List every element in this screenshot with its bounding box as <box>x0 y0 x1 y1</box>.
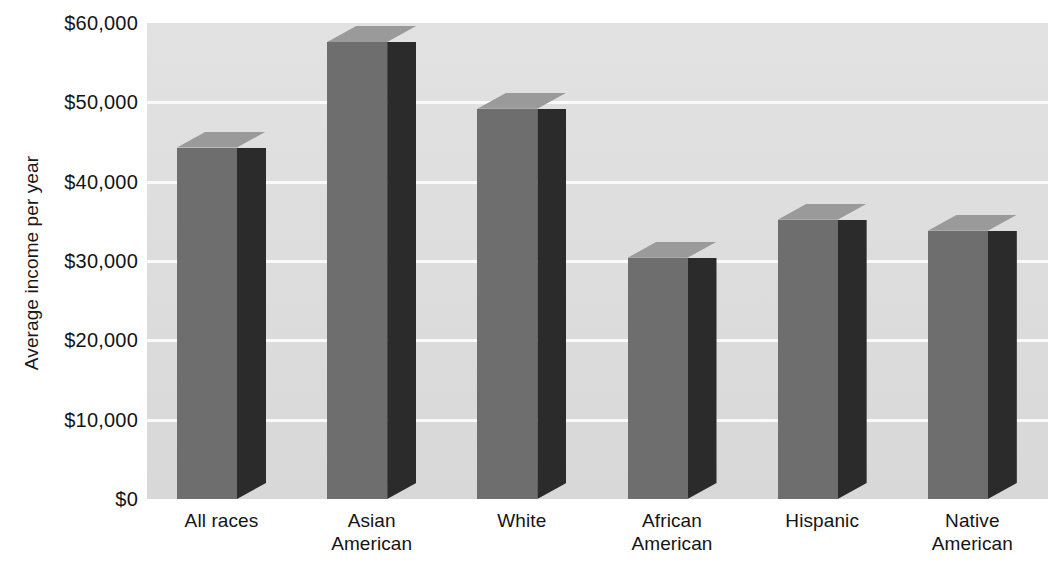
gridline <box>147 260 1048 263</box>
y-tick-label: $50,000 <box>28 91 138 114</box>
plot-area <box>147 23 1048 499</box>
bar-top-face <box>177 132 266 148</box>
gridline <box>147 339 1048 342</box>
bar-front-face <box>477 109 537 499</box>
bar-front-face <box>327 42 387 499</box>
bar-front-face <box>928 231 988 499</box>
gridline <box>147 419 1048 422</box>
y-tick-label: $60,000 <box>28 12 138 35</box>
bar-front-face <box>628 258 688 499</box>
gridline <box>147 101 1048 104</box>
bar-top-face <box>628 242 717 258</box>
bar-front-face <box>778 220 838 499</box>
bar-side-face <box>838 220 867 499</box>
y-axis-tick-labels: $0$10,000$20,000$30,000$40,000$50,000$60… <box>18 0 138 565</box>
bar-top-face <box>778 204 867 220</box>
bar-side-face <box>387 42 416 499</box>
x-tick-label: All races <box>185 509 259 532</box>
y-tick-label: $40,000 <box>28 170 138 193</box>
bar-column <box>628 242 688 499</box>
bar-side-face <box>988 231 1017 499</box>
bar-column <box>477 93 537 499</box>
y-tick-label: $30,000 <box>28 250 138 273</box>
x-tick-label: White <box>497 509 546 532</box>
x-tick-label: Hispanic <box>785 509 859 532</box>
bar-column <box>928 215 988 499</box>
y-tick-label: $0 <box>28 488 138 511</box>
bar-top-face <box>327 26 416 42</box>
bar-chart: Average income per year $0$10,000$20,000… <box>0 0 1053 565</box>
x-tick-label: Asian American <box>331 509 412 555</box>
bar-side-face <box>688 258 717 499</box>
bar-side-face <box>537 109 566 499</box>
bar-column <box>327 26 387 499</box>
bar-column <box>177 132 237 499</box>
gridline <box>147 181 1048 184</box>
x-tick-label: African American <box>631 509 712 555</box>
bar-column <box>778 204 838 499</box>
y-tick-label: $20,000 <box>28 329 138 352</box>
bar-top-face <box>928 215 1017 231</box>
bar-side-face <box>237 148 266 499</box>
y-tick-label: $10,000 <box>28 408 138 431</box>
bar-front-face <box>177 148 237 499</box>
x-tick-label: Native American <box>932 509 1013 555</box>
